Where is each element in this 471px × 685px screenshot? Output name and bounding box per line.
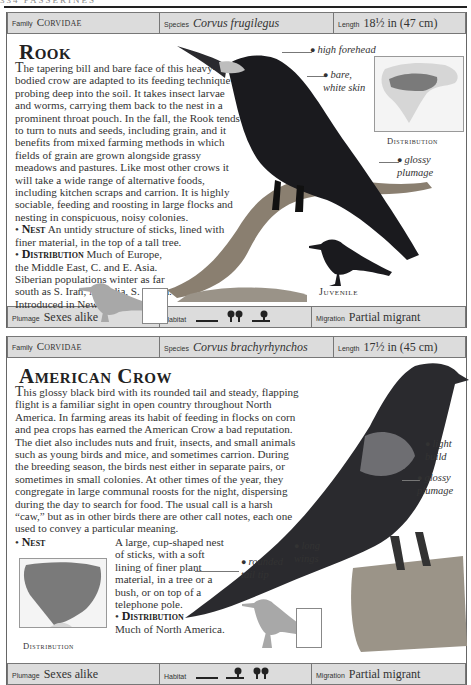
migration-value: Partial migrant <box>349 667 421 682</box>
length-cell: Length 17½ in (45 cm) <box>334 337 465 357</box>
migration-value: Partial migrant <box>349 310 421 325</box>
length-cell: Length 18½ in (47 cm) <box>334 13 465 33</box>
callout-rounded-tail-tip: ●rounded tail tip <box>241 556 289 580</box>
entry-body: Rook The tapering bill and bare face of … <box>7 34 466 306</box>
farmland-icon <box>252 310 270 322</box>
info-bar: Family Corvidae Species Corvus frugilegu… <box>7 12 466 34</box>
callout-glossy-plumage: ●glossy plumage <box>397 154 449 178</box>
family-cell: Family Corvidae <box>8 13 160 33</box>
info-bar: Family Corvidae Species Corvus brachyrhy… <box>7 336 466 358</box>
plumage-value: Sexes alike <box>44 667 98 682</box>
species-cell: Species Corvus frugilegus <box>160 13 334 33</box>
entry-body: American Crow This glossy black bird wit… <box>7 358 466 663</box>
migration-cell: Migration Partial migrant <box>312 664 465 684</box>
header-rule <box>4 6 467 8</box>
running-head: 334 PASSERINES <box>0 0 471 3</box>
callout-glossy-plumage: ●glossy plumage <box>417 472 469 496</box>
footer-bar: Plumage Sexes alike Habitat Migration Pa… <box>7 663 466 685</box>
grassland-icon <box>196 312 218 322</box>
species-cell: Species Corvus brachyrhynchos <box>160 337 334 357</box>
juvenile-label: Juvenile <box>319 286 358 297</box>
entry-american-crow: Family Corvidae Species Corvus brachyrhy… <box>6 336 467 685</box>
book-size-icon <box>296 608 322 648</box>
distribution-map <box>19 558 107 628</box>
habitat-cell: Habitat <box>160 664 312 684</box>
american-crow-illustration <box>175 356 469 656</box>
length-value: 18½ in (47 cm) <box>363 16 437 31</box>
callout-leader <box>379 162 399 163</box>
map-label: Distribution <box>23 641 74 651</box>
callout-leader <box>195 571 239 572</box>
farmland-icon <box>226 667 244 679</box>
migration-cell: Migration Partial migrant <box>312 307 465 327</box>
callout-light-build: ●light build <box>425 438 465 462</box>
family-cell: Family Corvidae <box>8 337 160 357</box>
book-size-icon <box>142 288 168 324</box>
callout-bare-white-skin: ●bare, white skin <box>323 69 369 93</box>
callout-high-forehead: ●high forehead <box>310 44 376 57</box>
callout-long-wings: ●long wings <box>294 540 334 564</box>
species-value: Corvus brachyrhynchos <box>193 340 308 355</box>
distribution-map <box>374 56 464 132</box>
north-america-map <box>20 559 106 627</box>
entry-rook: Family Corvidae Species Corvus frugilegu… <box>6 12 467 328</box>
species-value: Corvus frugilegus <box>193 16 279 31</box>
woodland-icon <box>226 310 244 322</box>
map-label: Distribution <box>387 136 438 146</box>
grassland-icon <box>196 669 218 679</box>
callout-leader <box>282 52 312 53</box>
family-value: Corvidae <box>37 340 82 352</box>
length-value: 17½ in (45 cm) <box>363 340 437 355</box>
woodland-icon <box>252 667 270 679</box>
plumage-cell: Plumage Sexes alike <box>8 664 160 684</box>
eurasia-map <box>375 57 463 131</box>
juvenile-illustration <box>307 234 397 289</box>
family-value: Corvidae <box>37 16 82 28</box>
